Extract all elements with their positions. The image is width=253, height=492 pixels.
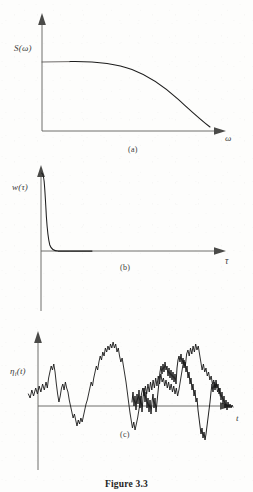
panel-c-y-axis-label-arg: (t) [17,366,26,376]
panel-a-plot [0,0,253,162]
panel-b: w(τ) τ (b) [0,163,253,313]
panel-b-y-axis-label-arg: (τ) [18,182,28,192]
figure-caption: Figure 3.3 [0,479,253,489]
panel-b-y-axis-arrow [37,165,45,177]
panel-a-spectrum-curve [70,62,210,127]
panel-b-y-axis-label: w(τ) [12,182,28,192]
panel-c-y-axis-label: ηi(t) [10,366,26,377]
panel-b-tag: (b) [120,263,130,272]
panel-b-x-axis-arrow [214,247,226,255]
panel-b-correlation-curve [42,173,93,251]
panel-a-tag: (a) [128,145,138,154]
panel-a-x-axis-label: ω [225,133,232,143]
panel-c-x-axis-label: t [236,413,239,423]
panel-a-y-axis-label: S(ω) [14,43,32,53]
panel-c-plot [0,322,253,472]
panel-a: S(ω) ω (a) [0,0,253,162]
panel-c-y-axis-arrow [34,331,42,343]
panel-a-y-axis-arrow [38,13,46,25]
figure-3-3: S(ω) ω (a) w(τ) τ (b) [0,0,253,492]
panel-c: ηi(t) t (c) [0,322,253,472]
panel-c-tag: (c) [120,430,130,439]
panel-b-x-axis-label: τ [225,256,229,266]
panel-b-plot [0,163,253,313]
